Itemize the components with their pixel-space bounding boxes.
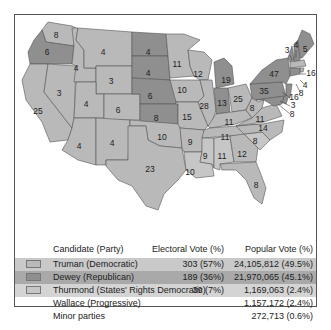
state-southdakota <box>132 56 170 80</box>
svg-text:16: 16 <box>306 68 316 78</box>
svg-text:15: 15 <box>182 112 192 122</box>
svg-text:11: 11 <box>218 151 227 161</box>
popular-vote: 21,970,065 (45.1%) <box>234 271 313 284</box>
header-popular: Popular Vote (%) <box>245 244 313 254</box>
svg-text:8: 8 <box>290 109 295 119</box>
svg-text:6: 6 <box>148 91 153 101</box>
svg-text:3: 3 <box>109 76 114 86</box>
popular-vote: 272,713 (0.6%) <box>251 310 313 323</box>
svg-text:47: 47 <box>269 69 279 79</box>
state-rhodeisland <box>300 68 304 72</box>
svg-text:8: 8 <box>154 113 159 123</box>
svg-text:5: 5 <box>303 44 308 54</box>
candidate-name: Dewey (Republican) <box>53 271 134 284</box>
svg-text:4: 4 <box>101 47 106 57</box>
legend-row-dewey: Dewey (Republican) 189 (36%) 21,970,065 … <box>15 271 316 284</box>
legend-row-truman: Truman (Democratic) 303 (57%) 24,105,812… <box>15 258 316 271</box>
electoral-vote: 39 (7%) <box>192 284 224 297</box>
svg-text:4: 4 <box>84 99 89 109</box>
svg-text:10: 10 <box>177 85 187 95</box>
svg-text:4: 4 <box>77 141 82 151</box>
header-electoral: Electoral Vote (%) <box>152 244 224 254</box>
electoral-vote: 189 (36%) <box>182 271 224 284</box>
svg-text:4: 4 <box>146 68 151 78</box>
popular-vote: 24,105,812 (49.5%) <box>234 258 313 271</box>
svg-text:14: 14 <box>258 123 268 133</box>
svg-text:9: 9 <box>188 137 193 147</box>
svg-text:11: 11 <box>225 117 234 127</box>
svg-text:19: 19 <box>221 75 231 85</box>
legend-row-minor-parties: Minor parties 272,713 (0.6%) <box>15 310 316 323</box>
svg-text:4: 4 <box>146 47 151 57</box>
legend-row-thurmond: Thurmond (States' Rights Democratic) 39 … <box>15 284 316 297</box>
popular-vote: 1,169,063 (2.4%) <box>244 284 313 297</box>
svg-text:6: 6 <box>45 47 50 57</box>
candidate-name: Minor parties <box>53 310 105 323</box>
us-election-map: 8 6 25 3 4 4 3 4 6 4 4 4 4 6 8 10 23 11 … <box>0 0 331 245</box>
svg-text:13: 13 <box>217 98 227 108</box>
legend-header: Candidate (Party) Electoral Vote (%) Pop… <box>15 244 316 258</box>
svg-text:11: 11 <box>221 132 230 142</box>
svg-text:8: 8 <box>299 88 304 98</box>
election-results-legend: Candidate (Party) Electoral Vote (%) Pop… <box>15 244 316 323</box>
svg-text:8: 8 <box>253 136 258 146</box>
svg-text:25: 25 <box>233 94 243 104</box>
svg-text:4: 4 <box>303 80 308 90</box>
candidate-name: Truman (Democratic) <box>53 258 138 271</box>
svg-text:4: 4 <box>74 63 79 73</box>
svg-text:4: 4 <box>110 138 115 148</box>
state-florida <box>220 162 266 204</box>
svg-text:11: 11 <box>173 59 182 69</box>
svg-text:10: 10 <box>185 167 195 177</box>
state-wyoming <box>96 66 132 94</box>
svg-text:3: 3 <box>57 88 62 98</box>
popular-vote: 1,157,172 (2.4%) <box>244 297 313 310</box>
state-colorado <box>104 94 140 120</box>
svg-text:8: 8 <box>250 103 255 113</box>
state-connecticut <box>290 68 300 76</box>
svg-text:11: 11 <box>256 114 265 124</box>
svg-text:25: 25 <box>33 106 43 116</box>
svg-text:12: 12 <box>237 149 247 159</box>
svg-text:8: 8 <box>54 30 59 40</box>
swatch-thurmond <box>26 286 41 294</box>
svg-text:6: 6 <box>116 105 121 115</box>
candidate-name: Wallace (Progressive) <box>53 297 141 310</box>
svg-text:9: 9 <box>203 151 208 161</box>
svg-text:10: 10 <box>157 132 167 142</box>
legend-row-wallace: Wallace (Progressive) 1,157,172 (2.4%) <box>15 297 316 310</box>
header-candidate: Candidate (Party) <box>53 244 124 254</box>
svg-text:4: 4 <box>294 40 299 50</box>
svg-text:3: 3 <box>285 45 290 55</box>
svg-text:8: 8 <box>254 180 259 190</box>
swatch-truman <box>26 260 41 268</box>
electoral-vote: 303 (57%) <box>182 258 224 271</box>
svg-text:35: 35 <box>259 86 269 96</box>
svg-text:12: 12 <box>193 69 203 79</box>
svg-text:23: 23 <box>145 164 155 174</box>
swatch-dewey <box>26 273 41 281</box>
svg-text:28: 28 <box>199 101 209 111</box>
state-massachusetts <box>290 60 306 68</box>
state-iowa <box>170 80 204 102</box>
candidate-name: Thurmond (States' Rights Democratic) <box>53 284 206 297</box>
